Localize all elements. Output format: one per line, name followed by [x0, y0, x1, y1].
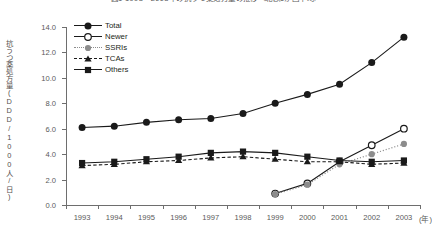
x-tick-mark [259, 205, 260, 209]
data-point [175, 116, 182, 123]
y-tick-label: 4.0 [30, 150, 56, 159]
series-ssris [272, 141, 407, 197]
x-tick-label: 1997 [202, 213, 219, 222]
x-tick-label: 2003 [395, 213, 412, 222]
x-tick-label: 2000 [299, 213, 316, 222]
data-point [207, 115, 214, 122]
data-point [304, 91, 311, 98]
legend-item-others[interactable]: Others [74, 64, 128, 75]
legend-item-newer[interactable]: Newer [74, 31, 128, 42]
x-tick-mark [227, 205, 228, 209]
data-point [240, 110, 247, 117]
x-tick-mark [323, 205, 324, 209]
legend-item-tcas[interactable]: TCAs [74, 53, 128, 64]
data-point [111, 159, 117, 165]
y-tick-label: 12.0 [30, 48, 56, 57]
y-tick-label: 10.0 [30, 74, 56, 83]
data-point [272, 150, 278, 156]
x-axis-unit-label: (年) [419, 213, 432, 224]
data-point [304, 182, 310, 188]
data-point [111, 123, 118, 130]
x-tick-mark [98, 205, 99, 209]
y-tick-label: 0.0 [30, 201, 56, 210]
data-point [208, 150, 214, 156]
y-tick-label: 8.0 [30, 99, 56, 108]
x-tick-label: 1996 [170, 213, 187, 222]
legend-label: TCAs [105, 54, 125, 63]
data-point [336, 157, 342, 163]
x-tick-label: 2002 [363, 213, 380, 222]
y-tick-label: 14.0 [30, 23, 56, 32]
data-point [369, 159, 375, 165]
x-tick-mark [163, 205, 164, 209]
chart-legend: TotalNewerSSRIsTCAsOthers [74, 20, 128, 75]
y-tick-label: 6.0 [30, 125, 56, 134]
x-tick-mark [291, 205, 292, 209]
data-point [272, 191, 278, 197]
legend-marker-newer-icon [74, 31, 102, 42]
data-point [240, 149, 246, 155]
x-tick-mark [356, 205, 357, 209]
x-tick-mark [66, 205, 67, 209]
x-tick-mark [130, 205, 131, 209]
data-point [304, 154, 310, 160]
data-point [272, 100, 279, 107]
data-point [79, 160, 85, 166]
legend-label: Newer [105, 32, 128, 41]
legend-label: Others [105, 65, 128, 74]
series-line [275, 144, 404, 194]
x-tick-mark [195, 205, 196, 209]
legend-item-ssris[interactable]: SSRIs [74, 42, 128, 53]
data-point [400, 34, 407, 41]
data-point [368, 142, 375, 149]
data-point [401, 157, 407, 163]
legend-marker-total-icon [74, 20, 102, 31]
x-tick-label: 2001 [331, 213, 348, 222]
legend-label: SSRIs [105, 43, 127, 52]
data-point [176, 154, 182, 160]
x-tick-mark [420, 205, 421, 209]
data-point [401, 125, 408, 132]
legend-label: Total [105, 21, 121, 30]
data-point [368, 59, 375, 66]
chart-figure: 図1 1993～2003年の抗うつ薬処方量の推移（北欧5か国平均） 抗うつ薬処方… [0, 0, 432, 238]
data-point [143, 119, 150, 126]
data-point [369, 151, 375, 157]
x-axis-line [66, 205, 421, 206]
chart-title: 図1 1993～2003年の抗うつ薬処方量の推移（北欧5か国平均） [0, 0, 432, 2]
x-tick-label: 1999 [267, 213, 284, 222]
data-point [336, 81, 343, 88]
y-axis-title: 抗うつ薬処方量(DDD/1000人/日) [1, 34, 16, 206]
y-tick-label: 2.0 [30, 176, 56, 185]
x-tick-label: 1993 [74, 213, 91, 222]
legend-marker-tcas-icon [74, 53, 102, 64]
x-tick-label: 1994 [106, 213, 123, 222]
legend-item-total[interactable]: Total [74, 20, 128, 31]
legend-marker-others-icon [74, 64, 102, 75]
x-tick-label: 1995 [138, 213, 155, 222]
x-tick-mark [388, 205, 389, 209]
legend-marker-ssris-icon [74, 42, 102, 53]
data-point [143, 156, 149, 162]
x-tick-label: 1998 [235, 213, 252, 222]
data-point [79, 124, 86, 131]
data-point [401, 141, 407, 147]
